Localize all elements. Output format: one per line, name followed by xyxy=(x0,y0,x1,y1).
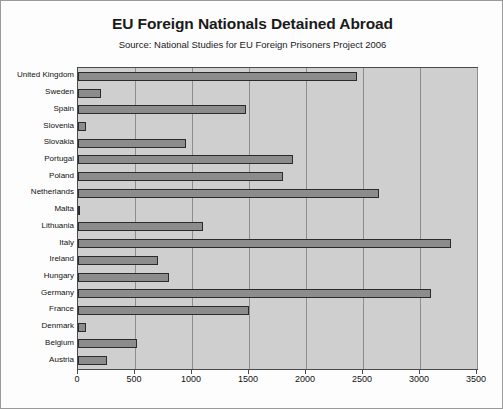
y-axis-tick-label: Germany xyxy=(1,288,74,297)
x-axis-tick xyxy=(77,370,78,374)
y-axis-tick-label: Hungary xyxy=(1,271,74,280)
chart-subtitle: Source: National Studies for EU Foreign … xyxy=(1,39,503,50)
bar-series xyxy=(78,68,477,369)
y-axis-tick-label: United Kingdom xyxy=(1,70,74,79)
bar xyxy=(78,289,431,298)
x-axis-tick xyxy=(419,370,420,374)
y-axis-tick-label: Malta xyxy=(1,204,74,213)
chart-title: EU Foreign Nationals Detained Abroad xyxy=(1,15,503,33)
bar xyxy=(78,239,451,248)
bar xyxy=(78,273,169,282)
bar xyxy=(78,306,249,315)
y-axis-tick-label: Austria xyxy=(1,355,74,364)
bar xyxy=(78,339,137,348)
bar xyxy=(78,89,101,98)
bar xyxy=(78,105,246,114)
bar xyxy=(78,323,86,332)
y-axis-tick-label: Portugal xyxy=(1,154,74,163)
y-axis-tick-label: Slovenia xyxy=(1,121,74,130)
x-axis-tick-label: 1500 xyxy=(238,374,258,384)
bar xyxy=(78,139,186,148)
y-axis-tick-label: France xyxy=(1,304,74,313)
y-axis-tick-label: Belgium xyxy=(1,338,74,347)
x-axis-tick-label: 1000 xyxy=(181,374,201,384)
x-axis-tick-label: 0 xyxy=(74,374,79,384)
bar xyxy=(78,256,158,265)
x-axis-tick xyxy=(191,370,192,374)
bar xyxy=(78,122,86,131)
x-axis-tick xyxy=(362,370,363,374)
y-axis-tick-label: Denmark xyxy=(1,321,74,330)
chart-figure: EU Foreign Nationals Detained Abroad Sou… xyxy=(0,0,503,409)
x-axis-tick xyxy=(134,370,135,374)
y-axis-labels: United KingdomSwedenSpainSloveniaSlovaki… xyxy=(1,67,74,370)
y-axis-tick-label: Sweden xyxy=(1,87,74,96)
y-axis-tick-label: Lithuania xyxy=(1,221,74,230)
plot-area xyxy=(77,67,478,370)
x-axis-tick-label: 500 xyxy=(126,374,141,384)
y-axis-tick-label: Ireland xyxy=(1,254,74,263)
bar xyxy=(78,222,203,231)
x-axis-tick-label: 2000 xyxy=(295,374,315,384)
bar xyxy=(78,356,107,365)
y-axis-tick-label: Italy xyxy=(1,238,74,247)
bar xyxy=(78,72,357,81)
x-axis-tick xyxy=(248,370,249,374)
y-axis-tick-label: Netherlands xyxy=(1,187,74,196)
y-axis-tick-label: Spain xyxy=(1,104,74,113)
x-axis-labels: 0500100015002000250030003500 xyxy=(1,374,503,390)
x-axis-tick-label: 3000 xyxy=(409,374,429,384)
bar xyxy=(78,155,293,164)
gridline xyxy=(477,68,478,369)
x-axis-tick-label: 3500 xyxy=(466,374,486,384)
x-axis-tick-label: 2500 xyxy=(352,374,372,384)
y-axis-tick-label: Slovakia xyxy=(1,137,74,146)
bar xyxy=(78,189,379,198)
bar xyxy=(78,172,283,181)
x-axis-tick xyxy=(305,370,306,374)
y-axis-tick-label: Poland xyxy=(1,171,74,180)
bar xyxy=(78,206,80,215)
x-axis-tick xyxy=(476,370,477,374)
